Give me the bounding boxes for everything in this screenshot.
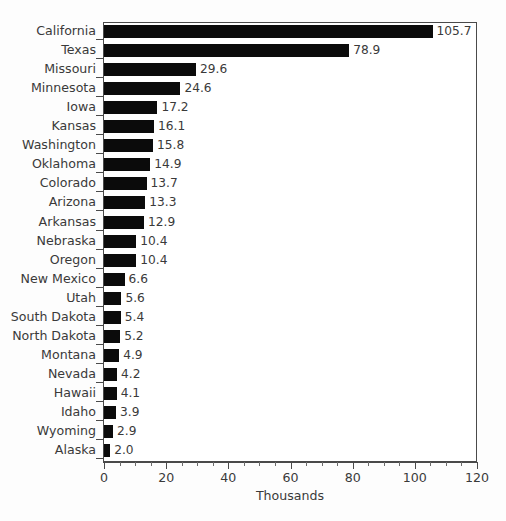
x-axis-minor-tick bbox=[384, 462, 385, 466]
category-label: Alaska bbox=[4, 441, 96, 459]
category-label: Arkansas bbox=[4, 213, 96, 231]
bar-value-label: 13.3 bbox=[145, 193, 176, 211]
bar bbox=[104, 425, 113, 438]
bar bbox=[104, 387, 117, 400]
y-axis-tick bbox=[96, 268, 103, 269]
bar-value-label: 2.0 bbox=[110, 441, 133, 459]
x-axis-major-tick bbox=[228, 462, 229, 469]
bar-value-label: 29.6 bbox=[196, 60, 227, 78]
category-label: Arizona bbox=[4, 193, 96, 211]
x-axis-major-tick bbox=[291, 462, 292, 469]
category-label: Colorado bbox=[4, 174, 96, 192]
x-axis-minor-tick bbox=[182, 462, 183, 466]
y-axis-tick bbox=[96, 382, 103, 383]
y-axis-tick bbox=[96, 306, 103, 307]
category-label: Idaho bbox=[4, 403, 96, 421]
x-axis-title: Thousands bbox=[0, 488, 506, 503]
bar bbox=[104, 158, 150, 171]
y-axis-tick bbox=[96, 439, 103, 440]
bar bbox=[104, 311, 121, 324]
category-label: Wyoming bbox=[4, 422, 96, 440]
x-axis-minor-tick bbox=[213, 462, 214, 466]
bar-value-label: 5.2 bbox=[120, 327, 143, 345]
bar-row: Utah5.6 bbox=[0, 289, 506, 307]
y-axis-tick bbox=[96, 420, 103, 421]
x-axis-minor-tick bbox=[399, 462, 400, 466]
bar-value-label: 13.7 bbox=[147, 174, 178, 192]
bar bbox=[104, 406, 116, 419]
bar-row: Missouri29.6 bbox=[0, 60, 506, 78]
bar-row: California105.7 bbox=[0, 22, 506, 40]
category-label: Nevada bbox=[4, 365, 96, 383]
bar-row: North Dakota5.2 bbox=[0, 327, 506, 345]
bar-value-label: 12.9 bbox=[144, 213, 175, 231]
bar bbox=[104, 273, 125, 286]
bar-value-label: 10.4 bbox=[136, 232, 167, 250]
category-label: Hawaii bbox=[4, 384, 96, 402]
bar-row: Wyoming2.9 bbox=[0, 422, 506, 440]
bar bbox=[104, 63, 196, 76]
category-label: Kansas bbox=[4, 117, 96, 135]
y-axis-tick bbox=[96, 58, 103, 59]
y-axis-tick bbox=[96, 115, 103, 116]
bar-row: New Mexico6.6 bbox=[0, 270, 506, 288]
bar-value-label: 5.4 bbox=[121, 308, 144, 326]
x-axis-minor-tick bbox=[446, 462, 447, 466]
x-axis-tick-label: 60 bbox=[282, 470, 298, 485]
bar-value-label: 4.1 bbox=[117, 384, 140, 402]
y-axis-tick bbox=[96, 363, 103, 364]
bar-row: Oregon10.4 bbox=[0, 251, 506, 269]
bar bbox=[104, 254, 136, 267]
category-label: California bbox=[4, 22, 96, 40]
x-axis-minor-tick bbox=[461, 462, 462, 466]
bar bbox=[104, 101, 157, 114]
x-axis-minor-tick bbox=[275, 462, 276, 466]
y-axis-tick bbox=[96, 287, 103, 288]
y-axis-tick bbox=[96, 325, 103, 326]
bar-value-label: 78.9 bbox=[349, 41, 380, 59]
bar-row: Nebraska10.4 bbox=[0, 232, 506, 250]
bar bbox=[104, 330, 120, 343]
bar-value-label: 3.9 bbox=[116, 403, 139, 421]
bar-value-label: 10.4 bbox=[136, 251, 167, 269]
x-axis-major-tick bbox=[477, 462, 478, 469]
bar-row: Hawaii4.1 bbox=[0, 384, 506, 402]
bar-row: Alaska2.0 bbox=[0, 441, 506, 459]
bar-row: Arizona13.3 bbox=[0, 193, 506, 211]
bar-row: Arkansas12.9 bbox=[0, 213, 506, 231]
x-axis-major-tick bbox=[415, 462, 416, 469]
category-label: Utah bbox=[4, 289, 96, 307]
y-axis-tick bbox=[96, 96, 103, 97]
bar-row: Montana4.9 bbox=[0, 346, 506, 364]
category-label: Texas bbox=[4, 41, 96, 59]
category-label: New Mexico bbox=[4, 270, 96, 288]
bar bbox=[104, 82, 180, 95]
x-axis-minor-tick bbox=[120, 462, 121, 466]
x-axis-tick-label: 40 bbox=[220, 470, 236, 485]
bar bbox=[104, 120, 154, 133]
y-axis-tick bbox=[96, 153, 103, 154]
bar-value-label: 5.6 bbox=[121, 289, 144, 307]
bar-value-label: 24.6 bbox=[180, 79, 211, 97]
bar-value-label: 16.1 bbox=[154, 117, 185, 135]
x-axis-minor-tick bbox=[368, 462, 369, 466]
x-axis-minor-tick bbox=[244, 462, 245, 466]
bar-value-label: 6.6 bbox=[125, 270, 148, 288]
bar bbox=[104, 292, 121, 305]
bar-row: Minnesota24.6 bbox=[0, 79, 506, 97]
y-axis-tick bbox=[96, 210, 103, 211]
x-axis-tick-label: 20 bbox=[158, 470, 174, 485]
x-axis-tick-label: 100 bbox=[403, 470, 427, 485]
bar-value-label: 105.7 bbox=[433, 22, 472, 40]
y-axis-tick bbox=[96, 344, 103, 345]
category-label: Nebraska bbox=[4, 232, 96, 250]
y-axis-tick bbox=[96, 230, 103, 231]
bar-value-label: 14.9 bbox=[150, 155, 181, 173]
category-label: Minnesota bbox=[4, 79, 96, 97]
bar bbox=[104, 368, 117, 381]
category-label: North Dakota bbox=[4, 327, 96, 345]
x-axis-major-tick bbox=[353, 462, 354, 469]
x-axis-minor-tick bbox=[337, 462, 338, 466]
y-axis-tick bbox=[96, 134, 103, 135]
bar-row: Iowa17.2 bbox=[0, 98, 506, 116]
